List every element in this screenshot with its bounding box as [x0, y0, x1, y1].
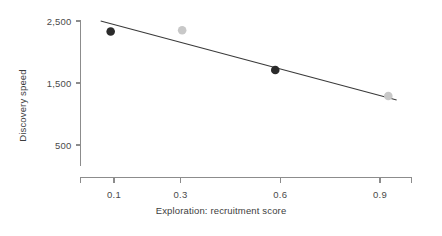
data-points-group — [106, 26, 392, 100]
data-point-4[interactable] — [384, 92, 393, 101]
x-tick-label-3: 0.9 — [373, 189, 387, 200]
scatter-chart: 2,5001,500500 0.10.30.60.9 Exploration: … — [0, 0, 442, 236]
trendline-group — [101, 21, 397, 100]
y-tick-label-1: 1,500 — [24, 78, 72, 89]
x-tick-label-2: 0.6 — [273, 189, 287, 200]
plot-area — [0, 0, 442, 236]
data-point-3[interactable] — [271, 66, 280, 75]
y-axis-title: Discovery speed — [17, 56, 28, 156]
x-tick-label-0: 0.1 — [107, 189, 121, 200]
x-axis-title: Exploration: recruitment score — [0, 205, 442, 216]
data-point-1[interactable] — [106, 27, 115, 36]
axes-group — [76, 21, 413, 183]
data-point-2[interactable] — [178, 26, 187, 35]
y-tick-label-0: 2,500 — [24, 16, 72, 27]
y-tick-label-2: 500 — [24, 140, 72, 151]
trendline — [101, 21, 397, 100]
x-tick-label-1: 0.3 — [174, 189, 188, 200]
